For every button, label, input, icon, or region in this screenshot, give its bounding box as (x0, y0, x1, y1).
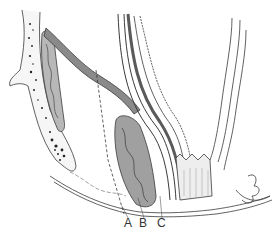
pelvic-floor (50, 176, 270, 213)
label-a: A (124, 217, 132, 229)
leader-c (160, 196, 162, 218)
right-lobule (242, 175, 259, 203)
label-c: C (157, 217, 166, 229)
label-b: B (139, 217, 147, 229)
anatomical-diagram: A B C (0, 0, 273, 236)
anal-canal (176, 154, 212, 200)
diagram-drawing (0, 0, 273, 236)
rectal-mucosa (140, 16, 192, 170)
right-wall (210, 18, 232, 160)
